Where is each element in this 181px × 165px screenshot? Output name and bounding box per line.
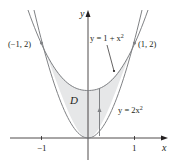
tick-label-1: 1	[132, 143, 137, 153]
region-label-d: D	[69, 94, 78, 106]
point-1-2	[133, 41, 136, 44]
tick-label-neg1: −1	[37, 143, 47, 153]
point-label-neg1-2: (−1, 2)	[8, 39, 31, 49]
point-label-1-2: (1, 2)	[138, 39, 157, 49]
label-pointer	[107, 45, 114, 71]
y-axis-arrow-icon	[86, 10, 91, 17]
point-neg1-2	[40, 41, 43, 44]
upper-curve-equation: y = 1 + x2	[90, 33, 124, 44]
region-diagram: y x −1 1 (−1, 2) (1, 2) D y = 1 + x2 y =…	[0, 0, 181, 165]
lower-curve-equation: y = 2x2	[118, 105, 143, 116]
y-axis-label: y	[79, 8, 85, 19]
pointer-dot	[113, 70, 115, 72]
x-axis-label: x	[161, 142, 167, 153]
x-axis-arrow-icon	[161, 136, 168, 141]
